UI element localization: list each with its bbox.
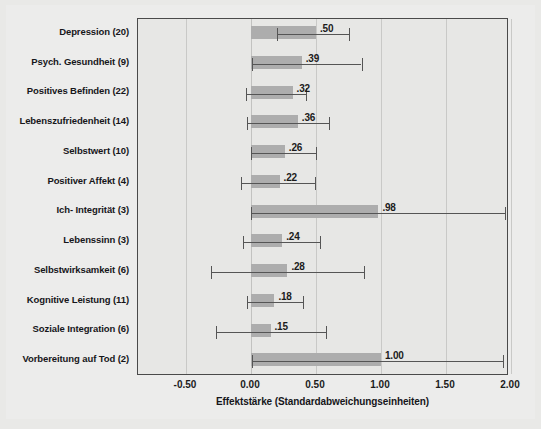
x-tick-label: 1.00 (370, 379, 389, 390)
x-tick-label: 0.50 (305, 379, 324, 390)
error-bar-cap-low (247, 296, 248, 309)
chart-figure: .50.39.32.36.26.22.98.24.28.18.151.00 De… (0, 0, 541, 429)
error-bar-cap-low (247, 117, 248, 130)
error-bar-line (251, 213, 505, 214)
bar-value-label: .22 (284, 172, 297, 183)
y-axis-label: Positives Befinden (22) (0, 85, 129, 96)
bar (251, 205, 378, 218)
bar-row: .98 (138, 198, 507, 228)
bar-value-label: .18 (278, 291, 291, 302)
error-bar-cap-high (326, 326, 327, 339)
error-bar-cap-high (503, 355, 504, 368)
bar (251, 86, 293, 99)
y-axis-label: Selbstwert (10) (0, 145, 129, 156)
bar-value-label: .32 (297, 83, 310, 94)
x-tick-label: 0.00 (240, 379, 259, 390)
error-bar-cap-low (252, 355, 253, 368)
bar-value-label: .24 (286, 231, 299, 242)
bar-row: .26 (138, 138, 507, 168)
error-bar-cap-low (251, 147, 252, 160)
y-axis-label: Positiver Affekt (4) (0, 175, 129, 186)
error-bar-line (247, 123, 329, 124)
error-bar-line (246, 94, 306, 95)
y-axis-label: Lebenszufriedenheit (14) (0, 115, 129, 126)
gridline-2.00 (511, 19, 512, 374)
error-bar-cap-high (329, 117, 330, 130)
bar-value-label: .39 (306, 53, 319, 64)
error-bar-line (247, 302, 303, 303)
bar (251, 234, 282, 247)
error-bar-cap-high (316, 147, 317, 160)
error-bar-cap-high (315, 177, 316, 190)
bar-value-label: .15 (275, 321, 288, 332)
bar-row: .36 (138, 108, 507, 138)
bar-row: .39 (138, 49, 507, 79)
bar (251, 145, 285, 158)
error-bar-line (277, 34, 349, 35)
y-axis-label: Lebenssinn (3) (0, 234, 129, 245)
bar-row: .24 (138, 227, 507, 257)
bar-row: .15 (138, 317, 507, 347)
bar (251, 264, 287, 277)
bar (251, 26, 316, 39)
error-bar-cap-high (505, 207, 506, 220)
bar-value-label: .50 (320, 23, 333, 34)
error-bar-cap-high (303, 296, 304, 309)
y-axis-label: Psych. Gesundheit (9) (0, 56, 129, 67)
error-bar-cap-low (251, 207, 252, 220)
bar-row: .32 (138, 79, 507, 109)
error-bar-cap-high (362, 58, 363, 71)
error-bar-line (241, 183, 315, 184)
error-bar-cap-low (211, 266, 212, 279)
y-axis-label: Ich- Integrität (3) (0, 204, 129, 215)
y-axis-label: Soziale Integration (6) (0, 323, 129, 334)
error-bar-line (211, 272, 364, 273)
bar (251, 294, 274, 307)
error-bar-cap-high (320, 236, 321, 249)
bar-row: .50 (138, 19, 507, 49)
x-tick-label: 2.00 (500, 379, 519, 390)
error-bar-cap-low (252, 58, 253, 71)
bar (251, 353, 381, 366)
bar (251, 175, 280, 188)
plot-area: .50.39.32.36.26.22.98.24.28.18.151.00 (137, 18, 508, 375)
error-bar-line (251, 153, 316, 154)
error-bar-line (243, 242, 320, 243)
bar-value-label: .28 (291, 261, 304, 272)
error-bar-cap-low (246, 88, 247, 101)
bar-value-label: .36 (302, 112, 315, 123)
bar-row: .22 (138, 168, 507, 198)
x-tick-label: -0.50 (174, 379, 197, 390)
bar-value-label: .98 (382, 202, 395, 213)
bar-value-label: 1.00 (385, 350, 404, 361)
y-axis-label: Vorbereitung auf Tod (2) (0, 353, 129, 364)
error-bar-cap-low (243, 236, 244, 249)
error-bar-cap-low (216, 326, 217, 339)
bar (251, 324, 271, 337)
y-axis-label: Selbstwirksamkeit (6) (0, 264, 129, 275)
bar (251, 56, 302, 69)
y-axis-label: Kognitive Leistung (11) (0, 294, 129, 305)
bar-row: 1.00 (138, 346, 507, 376)
error-bar-cap-low (277, 28, 278, 41)
bar (251, 115, 298, 128)
x-tick-label: 1.50 (435, 379, 454, 390)
error-bar-cap-high (364, 266, 365, 279)
x-axis-title: Effektstärke (Standardabweichungseinheit… (137, 396, 508, 407)
error-bar-cap-high (349, 28, 350, 41)
bar-row: .28 (138, 257, 507, 287)
bar-value-label: .26 (289, 142, 302, 153)
error-bar-line (252, 361, 503, 362)
error-bar-line (216, 332, 327, 333)
y-axis-label: Depression (20) (0, 26, 129, 37)
error-bar-line (252, 64, 361, 65)
error-bar-cap-low (241, 177, 242, 190)
bar-row: .18 (138, 287, 507, 317)
